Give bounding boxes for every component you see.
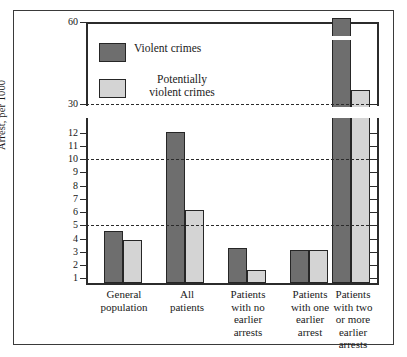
x-label-line-4: arrests [234, 326, 263, 338]
y-tick-label-60: 60 [56, 17, 78, 27]
y-tick-right-9 [369, 172, 377, 173]
bar-potentially-violent-no-earlier-arrests [247, 270, 266, 283]
legend-item-violent-crimes: Violent crimes [99, 40, 249, 68]
legend-label-potentially-violent-crimes: Potentially violent crimes [134, 73, 230, 98]
y-tick-9 [80, 172, 88, 173]
axis-break-gap [87, 107, 377, 118]
y-tick-label-2: 2 [56, 260, 78, 270]
y-tick-right-7 [369, 199, 377, 200]
legend-label-violent-crimes: Violent crimes [134, 42, 201, 55]
x-label-line-5: arrests [339, 338, 368, 350]
y-tick-label-8: 8 [56, 181, 78, 191]
y-tick-right-8 [369, 186, 377, 187]
y-tick-label-6: 6 [56, 207, 78, 217]
x-label-line-2: with two [334, 301, 373, 313]
y-tick-10 [80, 159, 88, 160]
y-tick-11 [80, 146, 88, 147]
y-tick-label-5: 5 [56, 220, 78, 230]
y-tick-label-3: 3 [56, 247, 78, 257]
right-axis-spine-lower [377, 118, 379, 284]
y-tick-60 [80, 22, 88, 23]
y-tick-right-10 [369, 159, 377, 160]
y-tick-5 [80, 225, 88, 226]
y-tick-label-10: 10 [56, 154, 78, 164]
y-tick-right-60 [369, 22, 377, 23]
x-category-general-population: General population [86, 288, 162, 313]
x-label-line-1: Patients [336, 288, 371, 300]
y-tick-4 [80, 239, 88, 240]
right-axis-spine-upper [377, 22, 379, 106]
x-label-line-1: Patients [231, 288, 266, 300]
y-tick-right-12 [369, 133, 377, 134]
y-tick-6 [80, 212, 88, 213]
bar-potentially-violent-general-population [123, 240, 142, 283]
y-tick-right-5 [369, 225, 377, 226]
x-label-line-3: or more [336, 313, 371, 325]
bar-potentially-violent-two-or-more-earlier-arrests [351, 90, 370, 283]
axis-break-top-nick [330, 36, 372, 40]
y-tick-1 [80, 278, 88, 279]
bar-potentially-violent-one-earlier-arrest [309, 250, 328, 283]
figure-bar-chart: Arrest, per 1000 60 30 12 11 10 [0, 0, 407, 357]
x-category-two-or-more-earlier-arrests: Patients with two or more earlier arrest… [318, 288, 388, 351]
y-axis-spine-upper [86, 22, 88, 106]
y-tick-label-1: 1 [56, 273, 78, 283]
legend-item-potentially-violent-crimes: Potentially violent crimes [99, 76, 249, 104]
x-label-line-3: earlier [234, 313, 262, 325]
x-axis-baseline [86, 283, 379, 285]
y-tick-label-4: 4 [56, 234, 78, 244]
y-axis-title: Arrest, per 1000 [0, 30, 7, 150]
x-label-line-4: earlier [339, 326, 367, 338]
y-tick-3 [80, 252, 88, 253]
y-axis-spine-lower [86, 118, 88, 284]
bar-violent-two-or-more-earlier-arrests [332, 18, 351, 283]
y-tick-8 [80, 186, 88, 187]
bar-violent-all-patients [166, 132, 185, 283]
y-tick-30 [80, 104, 88, 105]
x-label-line-1: General [107, 288, 142, 300]
legend-label-line-1: Potentially [157, 73, 207, 85]
y-tick-12 [80, 133, 88, 134]
y-tick-right-1 [369, 278, 377, 279]
y-tick-label-7: 7 [56, 194, 78, 204]
y-tick-label-11: 11 [56, 141, 78, 151]
x-category-all-patients: All patients [152, 288, 222, 313]
bar-violent-general-population [104, 231, 123, 283]
legend-swatch-potentially-violent-crimes [99, 79, 126, 98]
x-label-line-2: with no [231, 301, 264, 313]
bar-violent-one-earlier-arrest [290, 250, 309, 283]
y-tick-right-11 [369, 146, 377, 147]
x-label-line-2: population [100, 301, 147, 313]
y-tick-label-9: 9 [56, 167, 78, 177]
x-label-line-1: All [180, 288, 194, 300]
y-tick-7 [80, 199, 88, 200]
y-tick-right-3 [369, 252, 377, 253]
gridline-10 [86, 159, 379, 160]
gridline-30 [86, 104, 379, 105]
legend-label-line-2: violent crimes [149, 86, 214, 98]
bar-potentially-violent-all-patients [185, 210, 204, 283]
y-tick-label-30: 30 [56, 99, 78, 109]
y-tick-right-30 [369, 104, 377, 105]
x-category-no-earlier-arrests: Patients with no earlier arrests [214, 288, 282, 338]
chart-legend: Violent crimes Potentially violent crime… [99, 40, 249, 104]
bar-violent-no-earlier-arrests [228, 248, 247, 283]
y-tick-right-4 [369, 239, 377, 240]
legend-swatch-violent-crimes [99, 43, 126, 62]
y-tick-2 [80, 265, 88, 266]
y-tick-right-6 [369, 212, 377, 213]
gridline-5 [86, 225, 379, 226]
y-tick-right-2 [369, 265, 377, 266]
y-tick-label-12: 12 [56, 128, 78, 138]
x-label-line-2: patients [170, 301, 204, 313]
